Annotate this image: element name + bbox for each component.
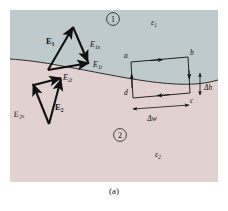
- figure-caption: (a): [0, 186, 228, 196]
- paper-texture: [10, 10, 218, 182]
- boundary-conditions-diagram: 1 2 ε1 ε2 E1 E1n E1t E2t E2 E2n a b c d …: [0, 0, 228, 211]
- label-corner-a: a: [124, 51, 128, 60]
- label-corner-d: d: [124, 88, 128, 97]
- region-1-number: 1: [111, 15, 115, 24]
- label-delta-h: Δh: [203, 83, 212, 92]
- figure-container: 1 2 ε1 ε2 E1 E1n E1t E2t E2 E2n a b c d …: [0, 0, 228, 211]
- label-delta-w: Δw: [146, 114, 156, 123]
- region-2-number: 2: [118, 131, 122, 140]
- label-corner-b: b: [190, 48, 194, 57]
